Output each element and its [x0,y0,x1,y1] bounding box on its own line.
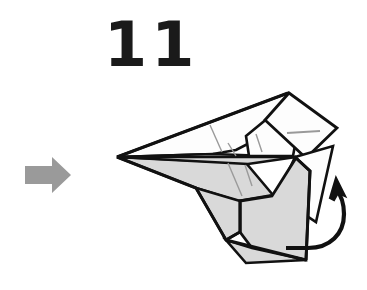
right-arrow-icon [25,157,71,193]
diagram-canvas [0,0,367,290]
paper-airplane-figure [117,93,337,263]
origami-step-diagram: 11 [0,0,367,290]
